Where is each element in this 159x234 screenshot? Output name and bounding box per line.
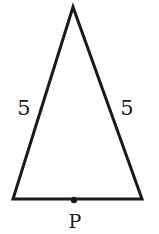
right-side-label: 5	[120, 96, 133, 120]
point-p-marker	[71, 197, 77, 203]
triangle-diagram: 5 5 P	[0, 0, 159, 234]
left-side-label: 5	[17, 96, 30, 120]
point-p-label: P	[69, 210, 82, 232]
